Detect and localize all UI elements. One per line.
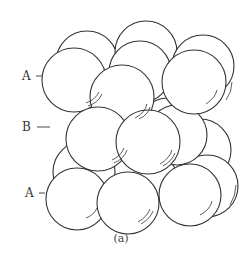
layer-label-b: B <box>22 121 31 133</box>
figure-caption: (a) <box>0 232 242 245</box>
layer-label-top-a: A <box>22 70 31 82</box>
bottom-a-layer-front <box>46 164 221 234</box>
layer-label-bottom-a: A <box>25 187 34 199</box>
close-packed-spheres-diagram <box>0 0 242 260</box>
